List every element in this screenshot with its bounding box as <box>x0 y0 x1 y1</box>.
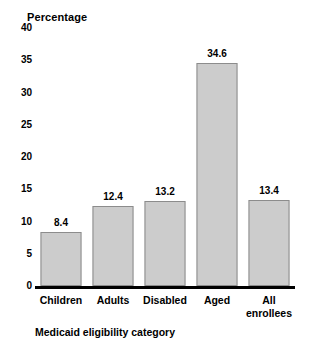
y-axis-tick-20: 20 <box>10 152 32 162</box>
bar-value-label: 8.4 <box>54 218 68 228</box>
y-axis-tick-0: 0 <box>10 281 32 291</box>
category-label-children: Children <box>35 294 87 307</box>
bar-value-label: 12.4 <box>103 192 122 202</box>
bar-value-label: 13.2 <box>155 187 174 197</box>
y-axis-tick-10: 10 <box>10 217 32 227</box>
x-axis-title: Medicaid eligibility category <box>35 326 175 338</box>
bar-adults[interactable] <box>93 206 134 286</box>
bar-value-label: 34.6 <box>207 49 226 59</box>
bar-slot: 13.4 <box>243 28 295 286</box>
category-label-aged: Aged <box>191 294 243 307</box>
bar-value-label: 13.4 <box>259 186 278 196</box>
x-axis-line <box>35 286 295 289</box>
bar-slot: 8.4 <box>35 28 87 286</box>
bar-slot: 12.4 <box>87 28 139 286</box>
category-label-disabled: Disabled <box>139 294 191 307</box>
bar-aged[interactable] <box>197 63 238 286</box>
x-axis-category-labels: ChildrenAdultsDisabledAgedAll enrollees <box>35 294 295 328</box>
bar-chart: Percentage 0510152025303540 8.412.413.23… <box>0 0 310 343</box>
category-label-adults: Adults <box>87 294 139 307</box>
y-axis-tick-5: 5 <box>10 249 32 259</box>
bar-slot: 34.6 <box>191 28 243 286</box>
y-axis-tick-40: 40 <box>10 23 32 33</box>
category-label-all-enrollees: All enrollees <box>243 294 295 319</box>
bar-children[interactable] <box>41 232 82 286</box>
y-axis-tick-30: 30 <box>10 88 32 98</box>
y-axis-title: Percentage <box>27 11 87 23</box>
y-axis-tick-25: 25 <box>10 120 32 130</box>
y-axis-tick-labels: 0510152025303540 <box>10 0 32 343</box>
bars-container: 8.412.413.234.613.4 <box>35 28 295 286</box>
bar-slot: 13.2 <box>139 28 191 286</box>
y-axis-tick-15: 15 <box>10 184 32 194</box>
bar-disabled[interactable] <box>145 201 186 286</box>
bar-all-enrollees[interactable] <box>249 200 290 286</box>
y-axis-tick-35: 35 <box>10 55 32 65</box>
